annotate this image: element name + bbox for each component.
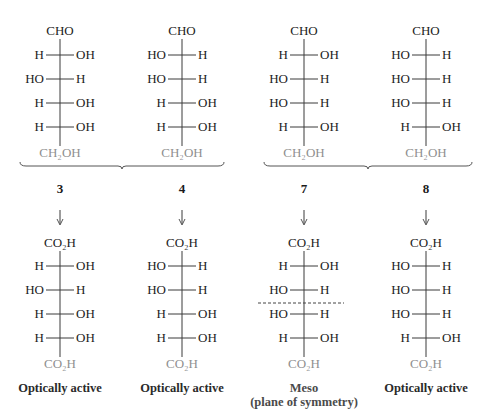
product-top-group: CO₂H [44,236,76,250]
left-substituent: HO [391,48,410,62]
left-substituent: HO [269,96,288,110]
left-substituent: H [279,259,288,273]
right-substituent: OH [442,331,461,345]
grouping-brace-left [20,162,224,169]
right-substituent: OH [76,331,95,345]
product-bottom-group: CO₂H [166,357,198,371]
left-substituent: HO [147,72,166,86]
top-group-label: CHO [46,24,73,38]
right-substituent: H [198,259,207,273]
left-substituent: H [401,331,410,345]
left-substituent: HO [25,283,44,297]
left-substituent: H [35,96,44,110]
right-substituent: OH [320,48,339,62]
left-substituent: H [35,259,44,273]
right-substituent: H [442,307,451,321]
left-substituent: H [157,96,166,110]
left-substituent: HO [147,259,166,273]
right-substituent: H [320,96,329,110]
right-substituent: OH [442,120,461,134]
right-substituent: OH [198,96,217,110]
right-substituent: OH [76,48,95,62]
right-substituent: OH [320,331,339,345]
right-substituent: OH [198,307,217,321]
bottom-group-label: CH₂OH [39,146,80,160]
right-substituent: H [198,72,207,86]
compound-number: 4 [179,182,186,196]
product-bottom-group: CO₂H [410,357,442,371]
right-substituent: H [320,72,329,86]
right-substituent: H [442,72,451,86]
left-substituent: HO [147,48,166,62]
left-substituent: H [35,307,44,321]
right-substituent: H [442,48,451,62]
right-substituent: OH [76,96,95,110]
right-substituent: OH [198,120,217,134]
right-substituent: OH [320,259,339,273]
left-substituent: H [157,331,166,345]
symmetry-sublabel: (plane of symmetry) [250,395,358,409]
fischer-projection-diagram: CHOHOHHOHHOHHOHCH₂OH3CO₂HHOHHOHHOHHOHCO₂… [0,0,490,416]
left-substituent: HO [391,72,410,86]
left-substituent: HO [391,259,410,273]
product-top-group: CO₂H [166,236,198,250]
left-substituent: HO [269,283,288,297]
right-substituent: OH [76,259,95,273]
left-substituent: H [35,331,44,345]
right-substituent: H [442,283,451,297]
optical-activity-label: Optically active [384,381,468,395]
right-substituent: H [198,283,207,297]
right-substituent: OH [76,307,95,321]
product-bottom-group: CO₂H [44,357,76,371]
left-substituent: H [35,120,44,134]
product-top-group: CO₂H [288,236,320,250]
optical-activity-label: Meso [290,381,318,395]
compound-number: 3 [57,182,64,196]
right-substituent: OH [320,120,339,134]
left-substituent: H [35,48,44,62]
right-substituent: H [198,48,207,62]
product-bottom-group: CO₂H [288,357,320,371]
compound-number: 7 [301,182,308,196]
bottom-group-label: CH₂OH [161,146,202,160]
top-group-label: CHO [412,24,439,38]
right-substituent: H [76,72,85,86]
right-substituent: H [320,307,329,321]
left-substituent: HO [391,96,410,110]
right-substituent: OH [198,331,217,345]
left-substituent: H [157,120,166,134]
product-top-group: CO₂H [410,236,442,250]
left-substituent: HO [269,307,288,321]
grouping-brace-right [264,162,472,169]
left-substituent: H [157,307,166,321]
optical-activity-label: Optically active [140,381,224,395]
bond-lines-layer [0,0,490,416]
top-group-label: CHO [168,24,195,38]
left-substituent: HO [391,283,410,297]
bottom-group-label: CH₂OH [283,146,324,160]
left-substituent: H [279,331,288,345]
left-substituent: HO [147,283,166,297]
right-substituent: OH [76,120,95,134]
bottom-group-label: CH₂OH [405,146,446,160]
optical-activity-label: Optically active [18,381,102,395]
right-substituent: H [442,259,451,273]
right-substituent: H [442,96,451,110]
left-substituent: H [279,120,288,134]
left-substituent: HO [25,72,44,86]
top-group-label: CHO [290,24,317,38]
right-substituent: H [320,283,329,297]
left-substituent: H [279,48,288,62]
left-substituent: H [401,120,410,134]
left-substituent: HO [269,72,288,86]
left-substituent: HO [391,307,410,321]
compound-number: 8 [423,182,430,196]
right-substituent: H [76,283,85,297]
